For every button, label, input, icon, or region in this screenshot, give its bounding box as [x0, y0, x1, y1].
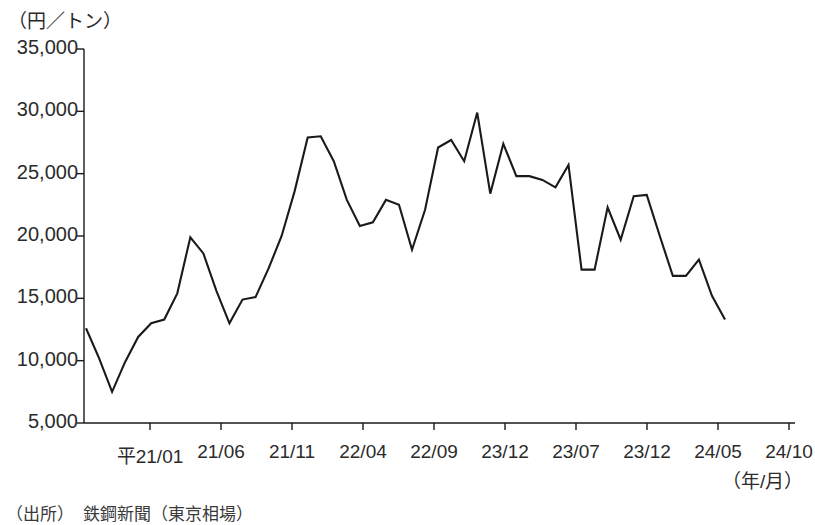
x-axis-tick-label: 23/12	[623, 441, 671, 463]
x-axis-tick-label: 22/09	[410, 441, 458, 463]
x-axis-tick-label: 23/07	[552, 441, 600, 463]
x-axis-tick-label: 24/05	[694, 441, 742, 463]
x-axis-unit-label: （年/月）	[722, 466, 803, 493]
x-axis-tick-label: 24/10	[765, 441, 813, 463]
x-axis-tick-label: 21/11	[269, 441, 315, 463]
data-line-series-1	[86, 113, 725, 392]
x-axis-tick-label: 23/12	[481, 441, 529, 463]
source-note: （出所） 鉄鋼新聞（東京相場）	[6, 500, 253, 525]
x-axis-tick-label: 平21/01	[117, 441, 184, 468]
y-axis-tick-marks	[77, 49, 84, 423]
x-axis-tick-label: 22/04	[339, 441, 387, 463]
x-axis-tick-label: 21/06	[197, 441, 245, 463]
x-axis-tick-marks	[150, 423, 789, 430]
